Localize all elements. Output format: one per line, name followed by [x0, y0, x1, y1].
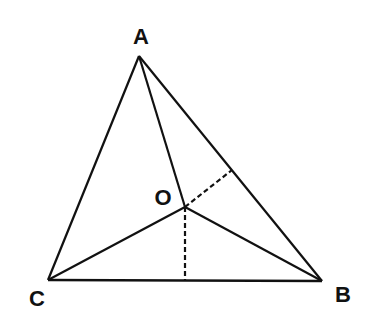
segment-bo — [185, 207, 322, 281]
perpendicular-o-ab — [185, 170, 232, 207]
side-ab — [139, 56, 322, 281]
label-a: A — [133, 24, 149, 49]
label-c: C — [29, 286, 45, 311]
label-b: B — [335, 282, 351, 307]
triangle-diagram: A B C O — [0, 0, 369, 322]
side-bc — [48, 280, 322, 281]
side-ca — [48, 56, 139, 280]
label-o: O — [154, 185, 171, 210]
segment-co — [48, 207, 185, 280]
